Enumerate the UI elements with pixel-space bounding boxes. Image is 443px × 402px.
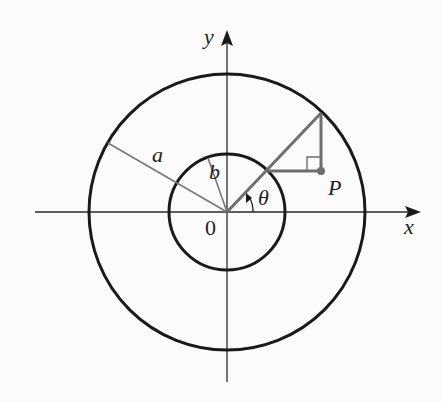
radius-b-label: b [209, 159, 220, 184]
radius-a-label: a [152, 142, 163, 167]
point-p-label: P [327, 175, 341, 200]
origin-label: 0 [205, 215, 216, 240]
concentric-circles-diagram: y x 0 a b θ P [0, 0, 443, 402]
y-axis-label: y [202, 24, 214, 49]
theta-label: θ [258, 185, 269, 210]
x-axis-label: x [403, 214, 414, 239]
point-p-dot [317, 167, 325, 175]
